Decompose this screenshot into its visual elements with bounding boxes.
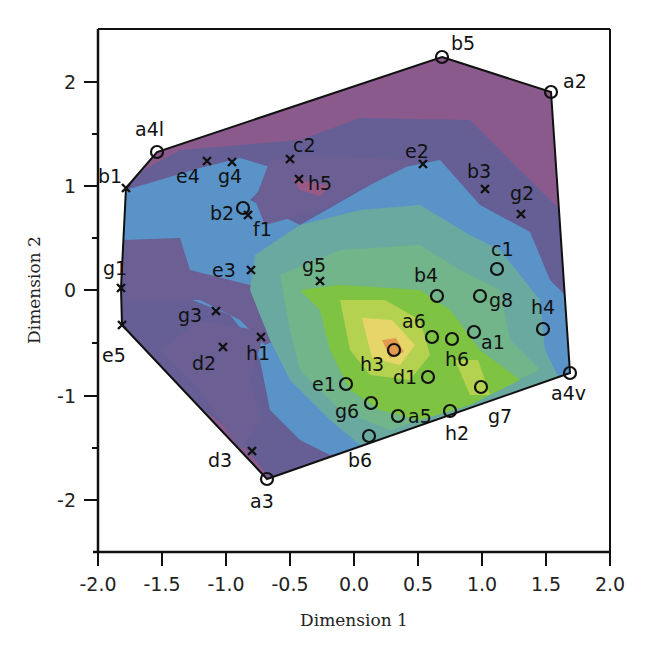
point-label: b6 xyxy=(348,449,372,471)
point-label: a2 xyxy=(563,70,587,92)
point-label: e3 xyxy=(212,259,236,281)
point-label: b4 xyxy=(414,264,438,286)
point-label: a5 xyxy=(408,405,432,427)
x-axis: -2.0 -1.5 -1.0 -0.5 0.0 0.5 1.0 1.5 2.0 … xyxy=(79,552,625,630)
point-label: h5 xyxy=(308,172,332,194)
point-label: g3 xyxy=(178,304,202,326)
point-label: g5 xyxy=(302,254,326,276)
point-label: g7 xyxy=(488,405,512,427)
point-label: g2 xyxy=(510,182,534,204)
y-axis-title: Dimension 2 xyxy=(24,236,44,344)
point-label: a4l xyxy=(135,118,164,140)
x-tick-label: 2.0 xyxy=(595,573,625,595)
point-label: a4v xyxy=(551,382,586,404)
x-tick-label: -0.5 xyxy=(271,573,308,595)
y-tick-label: 0 xyxy=(64,279,76,301)
point-label: f1 xyxy=(253,218,272,240)
y-tick-label: -1 xyxy=(57,385,76,407)
point-label: h2 xyxy=(445,422,469,444)
point-label: e2 xyxy=(405,140,429,162)
x-tick-label: 0.5 xyxy=(403,573,433,595)
contour-fill xyxy=(90,40,590,500)
x-tick-label: -2.0 xyxy=(79,573,116,595)
point-label: g1 xyxy=(103,257,127,279)
point-label: h3 xyxy=(360,353,384,375)
point-label: h1 xyxy=(246,342,270,364)
point-label: g8 xyxy=(489,289,513,311)
point-label: a1 xyxy=(481,331,505,353)
point-label: h4 xyxy=(531,296,555,318)
point-label: d1 xyxy=(393,366,417,388)
point-label: e5 xyxy=(102,344,126,366)
point-label: c2 xyxy=(293,134,316,156)
point-label: g6 xyxy=(335,400,359,422)
y-tick-label: 1 xyxy=(64,175,76,197)
x-tick-label: 0.0 xyxy=(339,573,369,595)
point-label: b3 xyxy=(467,160,491,182)
point-label: a6 xyxy=(402,310,426,332)
point-label: g4 xyxy=(218,165,242,187)
x-axis-title: Dimension 1 xyxy=(300,610,408,630)
point-label: h6 xyxy=(445,348,469,370)
point-label: b5 xyxy=(451,32,475,54)
x-tick-label: 1.0 xyxy=(467,573,497,595)
y-axis: 2 1 0 -1 -2 Dimension 2 xyxy=(24,71,98,511)
point-label: d2 xyxy=(192,352,216,374)
point-label: c1 xyxy=(491,238,514,260)
x-tick-label: 1.5 xyxy=(531,573,561,595)
y-tick-label: 2 xyxy=(64,71,76,93)
point-label: e4 xyxy=(176,165,200,187)
point-label: b1 xyxy=(98,165,122,187)
y-tick-label: -2 xyxy=(57,489,76,511)
x-tick-label: -1.0 xyxy=(207,573,244,595)
point-label: d3 xyxy=(208,449,232,471)
point-label: a3 xyxy=(250,490,274,512)
mds-contour-chart: -2.0 -1.5 -1.0 -0.5 0.0 0.5 1.0 1.5 2.0 … xyxy=(0,0,647,651)
point-label: e1 xyxy=(312,373,336,395)
point-label: b2 xyxy=(210,202,234,224)
x-tick-label: -1.5 xyxy=(143,573,180,595)
